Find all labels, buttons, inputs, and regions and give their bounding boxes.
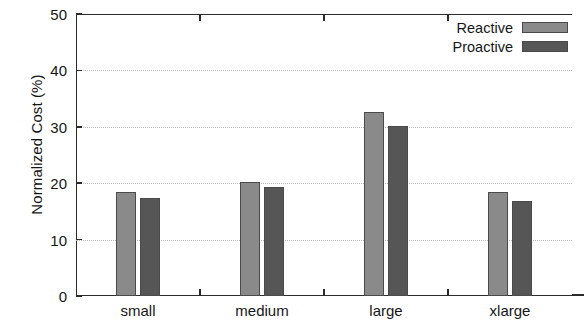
bar-reactive-large [364, 112, 384, 296]
y-axis-tick [76, 13, 82, 15]
x-axis-label-xlarge: xlarge [490, 302, 531, 319]
legend-label: Proactive [453, 39, 513, 55]
x-axis-baseline-extension [572, 294, 584, 296]
gridline [76, 127, 572, 129]
legend-label: Reactive [457, 20, 513, 36]
y-axis-tick-label: 20 [50, 175, 67, 192]
y-axis-tick [76, 70, 82, 72]
y-axis-tick [76, 295, 82, 297]
y-axis-tick-label: 50 [50, 6, 67, 23]
y-axis-tick [76, 182, 82, 184]
legend-item-reactive: Reactive [432, 18, 568, 37]
x-axis-tick-top [199, 14, 200, 21]
bar-reactive-medium [240, 182, 260, 296]
gridline [76, 183, 572, 185]
x-axis-label-large: large [369, 302, 402, 319]
plot-area: 01020304050 [76, 14, 572, 296]
x-axis-label-medium: medium [235, 302, 288, 319]
bar-proactive-small [140, 198, 160, 296]
x-axis-tick-bottom [199, 289, 200, 296]
bar-proactive-xlarge [512, 201, 532, 296]
legend-item-proactive: Proactive [432, 37, 568, 56]
y-axis-tick-label: 10 [50, 231, 67, 248]
chart-legend: ReactiveProactive [432, 18, 568, 56]
legend-swatch [522, 22, 568, 33]
y-axis-tick-label: 30 [50, 118, 67, 135]
x-axis-label-small: small [120, 302, 155, 319]
y-axis-tick [76, 239, 82, 241]
y-axis-title: Normalized Cost (%) [28, 5, 45, 285]
y-axis-tick-label: 40 [50, 62, 67, 79]
bar-proactive-medium [264, 187, 284, 296]
bar-reactive-small [116, 192, 136, 296]
bar-proactive-large [388, 126, 408, 296]
bar-reactive-xlarge [488, 192, 508, 296]
gridline [76, 70, 572, 72]
y-axis-tick-label: 0 [59, 288, 67, 305]
bar-chart-figure: Normalized Cost (%) 01020304050 smallmed… [0, 0, 584, 330]
x-axis-tick-bottom [447, 289, 448, 296]
legend-swatch [522, 41, 568, 52]
x-axis-tick-top [323, 14, 324, 21]
y-axis-tick [76, 126, 82, 128]
x-axis-tick-bottom [323, 289, 324, 296]
